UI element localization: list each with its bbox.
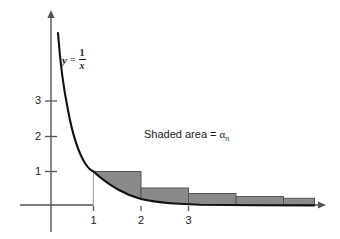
shaded-rect-3 <box>189 194 237 206</box>
shaded-area-annotation: Shaded area = αn <box>144 128 229 142</box>
x-tick-label-1: 1 <box>87 215 101 226</box>
shaded-rect-4 <box>236 197 284 206</box>
curve-label-variable: y <box>62 54 67 66</box>
curve-label-equals: = <box>70 54 76 65</box>
shaded-rect-5 <box>284 198 315 205</box>
y-tick-label-2: 2 <box>27 131 41 142</box>
shaded-area-text: Shaded area = <box>144 128 220 140</box>
x-tick-label-2: 2 <box>134 215 148 226</box>
plot-canvas <box>0 0 340 239</box>
alpha-subscript: n <box>225 135 229 142</box>
fraction-numerator: 1 <box>79 48 86 59</box>
figure-container: 3 2 1 1 2 3 y = 1 x Shaded area = αn <box>0 0 340 239</box>
x-axis-arrow <box>318 201 326 208</box>
curve-label-fraction: 1 x <box>79 48 86 71</box>
x-tick-label-3: 3 <box>182 215 196 226</box>
fraction-denominator: x <box>79 60 86 71</box>
y-tick-label-3: 3 <box>27 95 41 106</box>
y-axis <box>47 10 54 232</box>
y-axis-arrow <box>47 10 54 18</box>
curve-equation-label: y = 1 x <box>62 48 86 71</box>
y-tick-label-1: 1 <box>27 166 41 177</box>
